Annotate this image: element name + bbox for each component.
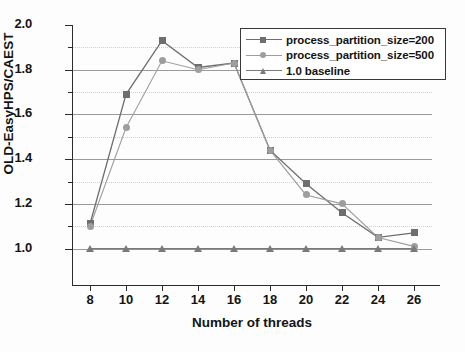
data-point	[339, 200, 346, 207]
data-point	[302, 245, 310, 252]
y-axis-title: OLD-EasyHPS/CAEST	[1, 0, 16, 244]
y-tick	[65, 159, 72, 160]
legend-label-baseline: 1.0 baseline	[286, 65, 350, 77]
x-tick	[162, 285, 163, 291]
data-point	[159, 37, 166, 44]
x-tick-label: 12	[147, 292, 177, 307]
y-tick	[65, 114, 72, 115]
data-point	[230, 245, 238, 252]
x-axis-title: Number of threads	[72, 315, 432, 330]
data-point	[375, 234, 382, 241]
x-tick	[270, 285, 271, 291]
data-point	[86, 245, 94, 252]
x-tick-label: 14	[183, 292, 213, 307]
legend-marker	[260, 37, 266, 43]
x-tick-label: 24	[363, 292, 393, 307]
legend-item-0[interactable]: process_partition_size=200	[246, 32, 440, 48]
x-tick-label: 8	[75, 292, 105, 307]
legend-marker	[260, 68, 266, 74]
x-tick-label: 20	[291, 292, 321, 307]
y-axis-line	[72, 25, 73, 285]
data-point	[267, 147, 274, 154]
x-tick-label: 18	[255, 292, 285, 307]
legend-marker	[260, 52, 266, 58]
data-point	[231, 60, 238, 67]
x-tick	[342, 285, 343, 291]
chart-figure: 1.01.21.41.61.82.0 8101214161820222426 O…	[0, 0, 465, 352]
data-point	[158, 245, 166, 252]
x-tick	[90, 285, 91, 291]
x-axis-line	[72, 285, 440, 286]
data-point	[410, 245, 418, 252]
data-point	[339, 209, 346, 216]
legend-label-series-200: process_partition_size=200	[286, 34, 434, 46]
legend-swatch-baseline	[246, 65, 282, 77]
x-tick	[378, 285, 379, 291]
data-point	[122, 245, 130, 252]
legend-box: process_partition_size=200 process_parti…	[240, 28, 446, 80]
x-tick	[414, 285, 415, 291]
legend-item-2[interactable]: 1.0 baseline	[246, 63, 440, 79]
data-point	[338, 245, 346, 252]
data-point	[374, 245, 382, 252]
x-tick	[198, 285, 199, 291]
data-point	[195, 66, 202, 73]
data-point	[411, 229, 418, 236]
y-tick	[65, 70, 72, 71]
data-point	[194, 245, 202, 252]
x-tick	[126, 285, 127, 291]
x-tick-label: 26	[399, 292, 429, 307]
series-line-1	[90, 61, 414, 247]
x-tick	[234, 285, 235, 291]
x-tick	[306, 285, 307, 291]
legend-swatch-series-500	[246, 49, 282, 61]
data-point	[303, 191, 310, 198]
x-tick-label: 16	[219, 292, 249, 307]
y-tick	[65, 249, 72, 250]
data-point	[303, 180, 310, 187]
data-point	[87, 223, 94, 230]
legend-swatch-series-200	[246, 34, 282, 46]
legend-label-series-500: process_partition_size=500	[286, 49, 434, 61]
legend-item-1[interactable]: process_partition_size=500	[246, 48, 440, 64]
data-point	[123, 124, 130, 131]
data-point	[159, 57, 166, 64]
data-point	[123, 91, 130, 98]
y-tick	[65, 25, 72, 26]
x-tick-label: 22	[327, 292, 357, 307]
x-tick-label: 10	[111, 292, 141, 307]
data-point	[266, 245, 274, 252]
y-tick	[65, 204, 72, 205]
